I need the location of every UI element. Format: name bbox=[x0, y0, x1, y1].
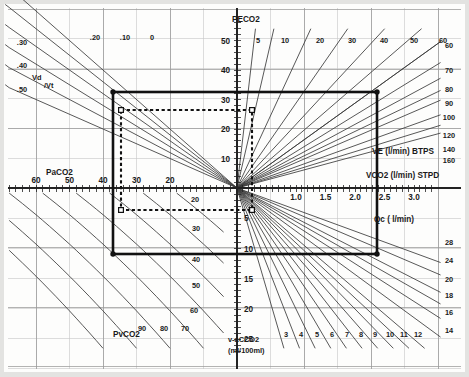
svg-text:24: 24 bbox=[445, 256, 454, 265]
svg-text:Vd: Vd bbox=[32, 73, 42, 82]
svg-text:60: 60 bbox=[31, 176, 41, 185]
family-pvco2-curves bbox=[9, 193, 223, 348]
svg-text:15: 15 bbox=[244, 275, 254, 284]
svg-text:.20: .20 bbox=[90, 33, 100, 42]
svg-text:8: 8 bbox=[359, 330, 363, 339]
svg-text:3.0: 3.0 bbox=[408, 193, 420, 202]
svg-text:140: 140 bbox=[443, 145, 455, 154]
svg-text:11: 11 bbox=[400, 330, 408, 339]
svg-text:40: 40 bbox=[221, 66, 231, 75]
svg-text:40: 40 bbox=[192, 255, 200, 264]
svg-text:PvCO2: PvCO2 bbox=[113, 330, 140, 339]
svg-text:.10: .10 bbox=[120, 33, 130, 42]
svg-text:9: 9 bbox=[373, 330, 377, 339]
svg-text:20: 20 bbox=[165, 176, 175, 185]
svg-text:20: 20 bbox=[445, 275, 453, 284]
svg-text:0: 0 bbox=[150, 33, 154, 42]
family-qc-lines bbox=[237, 188, 441, 348]
svg-text:PaCO2: PaCO2 bbox=[46, 168, 73, 177]
svg-text:.50: .50 bbox=[17, 85, 27, 94]
svg-text:50: 50 bbox=[192, 281, 200, 290]
svg-text:7: 7 bbox=[345, 330, 349, 339]
svg-text:70: 70 bbox=[181, 324, 189, 333]
svg-text:3: 3 bbox=[284, 330, 288, 339]
svg-text:60: 60 bbox=[190, 306, 198, 315]
svg-text:4: 4 bbox=[299, 330, 304, 339]
svg-text:30: 30 bbox=[348, 36, 356, 45]
svg-text:5: 5 bbox=[315, 330, 319, 339]
svg-text:VCO2 (l/min) STPD: VCO2 (l/min) STPD bbox=[366, 171, 439, 180]
svg-text:Qc ( l/min): Qc ( l/min) bbox=[374, 215, 414, 224]
svg-text:50: 50 bbox=[410, 36, 418, 45]
svg-text:1.0: 1.0 bbox=[290, 193, 302, 202]
svg-text:70: 70 bbox=[445, 66, 453, 75]
svg-text:VE (l/min) BTPS: VE (l/min) BTPS bbox=[372, 147, 434, 156]
svg-text:(ml/100ml): (ml/100ml) bbox=[228, 346, 265, 355]
svg-text:10: 10 bbox=[221, 155, 231, 164]
svg-text:160: 160 bbox=[443, 156, 455, 165]
svg-text:60: 60 bbox=[445, 41, 453, 50]
svg-text:/Vt: /Vt bbox=[44, 81, 54, 90]
svg-text:80: 80 bbox=[160, 324, 168, 333]
svg-text:14: 14 bbox=[445, 326, 454, 335]
svg-text:50: 50 bbox=[221, 37, 231, 46]
nomogram-plot: 20304050601.01.52.02.53.0102030405051015… bbox=[0, 0, 469, 377]
svg-text:1.5: 1.5 bbox=[320, 193, 332, 202]
svg-text:10: 10 bbox=[386, 330, 394, 339]
svg-text:120: 120 bbox=[443, 131, 455, 140]
svg-text:20: 20 bbox=[191, 195, 199, 204]
family-ve-lines bbox=[237, 29, 441, 188]
svg-text:40: 40 bbox=[98, 176, 108, 185]
svg-text:5: 5 bbox=[256, 36, 260, 45]
svg-text:40: 40 bbox=[380, 36, 388, 45]
svg-text:.40: .40 bbox=[17, 61, 27, 70]
svg-text:5: 5 bbox=[244, 214, 249, 223]
svg-text:18: 18 bbox=[445, 291, 453, 300]
svg-text:12: 12 bbox=[414, 330, 422, 339]
svg-text:6: 6 bbox=[330, 330, 334, 339]
svg-text:10: 10 bbox=[281, 36, 289, 45]
svg-text:20: 20 bbox=[316, 36, 324, 45]
svg-text:.30: .30 bbox=[17, 38, 27, 47]
svg-text:v-aCCO2: v-aCCO2 bbox=[228, 335, 259, 344]
svg-text:16: 16 bbox=[445, 308, 453, 317]
chart-canvas: 20304050601.01.52.02.53.0102030405051015… bbox=[0, 0, 469, 377]
svg-text:20: 20 bbox=[244, 305, 254, 314]
svg-text:PECO2: PECO2 bbox=[232, 15, 260, 24]
svg-text:20: 20 bbox=[221, 125, 231, 134]
svg-text:90: 90 bbox=[445, 99, 453, 108]
svg-text:30: 30 bbox=[192, 224, 200, 233]
svg-text:10: 10 bbox=[244, 245, 254, 254]
svg-text:30: 30 bbox=[132, 176, 142, 185]
svg-text:100: 100 bbox=[443, 113, 455, 122]
svg-text:2.5: 2.5 bbox=[379, 193, 391, 202]
svg-text:30: 30 bbox=[221, 96, 231, 105]
svg-text:2.0: 2.0 bbox=[349, 193, 361, 202]
svg-text:80: 80 bbox=[445, 85, 453, 94]
svg-text:90: 90 bbox=[138, 324, 146, 333]
svg-text:50: 50 bbox=[65, 176, 75, 185]
svg-text:28: 28 bbox=[445, 238, 453, 247]
